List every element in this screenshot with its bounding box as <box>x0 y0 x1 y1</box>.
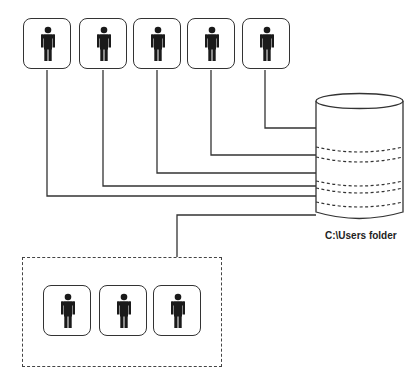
person-icon <box>243 19 291 70</box>
person-icon <box>80 19 128 70</box>
person-icon <box>44 286 92 337</box>
person-icon <box>154 286 202 337</box>
user-box-3[interactable] <box>133 18 181 69</box>
group-user-box-1[interactable] <box>43 285 91 336</box>
user-box-4[interactable] <box>187 18 235 69</box>
storage-label: C:\Users folder <box>325 230 397 241</box>
person-icon <box>24 19 72 70</box>
person-icon <box>100 286 148 337</box>
user-box-5[interactable] <box>242 18 290 69</box>
user-box-1[interactable] <box>23 18 71 69</box>
group-user-box-3[interactable] <box>153 285 201 336</box>
user-box-2[interactable] <box>79 18 127 69</box>
group-user-box-2[interactable] <box>99 285 147 336</box>
person-icon <box>134 19 182 70</box>
person-icon <box>188 19 236 70</box>
